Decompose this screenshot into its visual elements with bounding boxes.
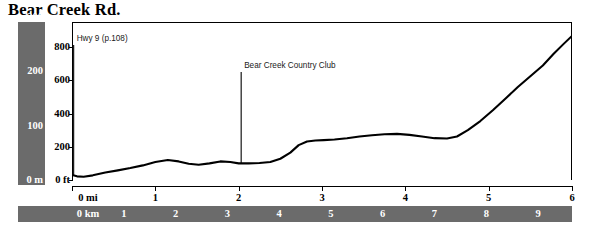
annotation-marker-lines xyxy=(74,45,242,175)
kilometers-tick-label: 9 xyxy=(535,208,540,219)
meters-tick-label: 0 m xyxy=(18,174,43,185)
kilometers-tick-label: 3 xyxy=(225,208,230,219)
feet-tick-label: 800 xyxy=(45,41,70,52)
annotation-label: Hwy 9 (p.108) xyxy=(77,34,128,43)
feet-tick-label: 200 xyxy=(45,141,70,152)
miles-tick-label: 0 mi xyxy=(78,192,98,203)
feet-axis-tick xyxy=(69,180,73,181)
miles-axis-tick xyxy=(239,186,240,191)
elevation-profile-plot xyxy=(72,22,572,180)
elevation-profile-figure: Bear Creek Rd. 0 m100200300 0 ft20040060… xyxy=(0,0,590,230)
feet-tick-label: 400 xyxy=(45,108,70,119)
meters-scale-bar xyxy=(18,22,45,185)
kilometers-tick-label: 0 km xyxy=(77,208,99,219)
miles-tick-label: 1 xyxy=(153,192,158,203)
meters-tick-label: 300 xyxy=(18,11,43,22)
miles-tick-label: 2 xyxy=(236,192,241,203)
meters-tick-label: 200 xyxy=(18,65,43,76)
annotation-label: Bear Creek Country Club xyxy=(244,61,335,70)
miles-tick-label: 4 xyxy=(403,192,408,203)
miles-axis-tick xyxy=(322,186,323,191)
kilometers-tick-label: 7 xyxy=(432,208,437,219)
kilometers-tick-label: 2 xyxy=(173,208,178,219)
miles-axis-tick xyxy=(572,186,573,191)
miles-axis-tick xyxy=(489,186,490,191)
feet-tick-label: 0 ft xyxy=(45,174,70,185)
kilometers-tick-label: 1 xyxy=(121,208,126,219)
feet-tick-label: 600 xyxy=(45,74,70,85)
elevation-profile-line xyxy=(72,36,572,177)
miles-tick-label: 5 xyxy=(486,192,491,203)
miles-tick-label: 6 xyxy=(569,192,574,203)
miles-axis-tick xyxy=(155,186,156,191)
kilometers-scale-bar xyxy=(18,206,572,222)
miles-tick-label: 3 xyxy=(319,192,324,203)
miles-axis-tick xyxy=(72,186,73,191)
kilometers-tick-label: 8 xyxy=(484,208,489,219)
kilometers-tick-label: 4 xyxy=(277,208,282,219)
miles-axis-tick xyxy=(405,186,406,191)
meters-tick-label: 100 xyxy=(18,120,43,131)
kilometers-tick-label: 6 xyxy=(380,208,385,219)
kilometers-tick-label: 5 xyxy=(328,208,333,219)
